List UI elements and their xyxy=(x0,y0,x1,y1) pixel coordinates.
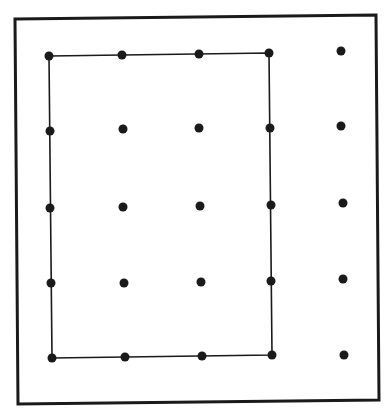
peg-r2-c1 xyxy=(119,203,128,212)
peg-r3-c2 xyxy=(197,278,206,287)
peg-r4-c4 xyxy=(340,351,349,360)
peg-r0-c1 xyxy=(118,51,127,60)
peg-r4-c0 xyxy=(48,354,57,363)
peg-r0-c4 xyxy=(337,47,346,56)
peg-r2-c2 xyxy=(196,202,205,211)
peg-r4-c1 xyxy=(121,353,130,362)
peg-r3-c1 xyxy=(120,279,129,288)
peg-r3-c3 xyxy=(267,277,276,286)
peg-r1-c4 xyxy=(337,122,346,131)
peg-r1-c2 xyxy=(195,124,204,133)
peg-r0-c2 xyxy=(195,50,204,59)
peg-r1-c3 xyxy=(266,124,275,133)
peg-r0-c3 xyxy=(265,49,274,58)
peg-r4-c3 xyxy=(268,351,277,360)
peg-r3-c0 xyxy=(47,279,56,288)
peg-r1-c1 xyxy=(119,125,128,134)
peg-r0-c0 xyxy=(45,52,54,61)
peg-r2-c3 xyxy=(267,201,276,210)
peg-r4-c2 xyxy=(198,352,207,361)
rectangle-band xyxy=(49,53,272,358)
peg-r3-c4 xyxy=(339,275,348,284)
peg-r2-c0 xyxy=(46,204,55,213)
board-frame xyxy=(15,15,379,404)
geoboard-diagram xyxy=(0,0,388,413)
peg-r2-c4 xyxy=(339,199,348,208)
peg-grid xyxy=(45,47,349,363)
peg-r1-c0 xyxy=(46,127,55,136)
